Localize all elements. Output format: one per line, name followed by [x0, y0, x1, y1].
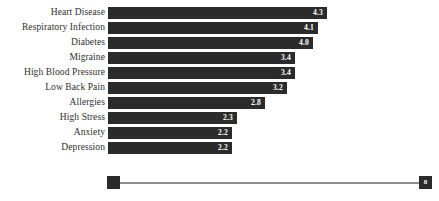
bar-row: Allergies2.8: [0, 96, 439, 111]
plot-area: Heart Disease4.3Respiratory Infection4.1…: [0, 6, 439, 156]
bar-value-label: 2.2: [108, 127, 228, 139]
bar-row: High Blood Pressure3.4: [0, 66, 439, 81]
bar-value-label: 4.0: [108, 37, 309, 49]
category-label: Respiratory Infection: [22, 21, 105, 36]
slider-handle-left[interactable]: [107, 176, 120, 189]
bar-track: 3.4: [108, 52, 439, 64]
bar-track: 4.0: [108, 37, 439, 49]
bar-row: Respiratory Infection4.1: [0, 21, 439, 36]
bar-value-label: 3.4: [108, 67, 291, 79]
category-label: Migraine: [69, 51, 105, 66]
bar-value-label: 3.2: [108, 82, 283, 94]
category-label: Diabetes: [71, 36, 105, 51]
bar-track: 4.1: [108, 22, 439, 34]
slider-track[interactable]: [114, 182, 420, 184]
slider-handle-right-label: 8: [424, 179, 428, 186]
bar-value-label: 2.2: [108, 142, 228, 154]
category-label: Anxiety: [74, 126, 105, 141]
bar-track: 2.8: [108, 97, 439, 109]
bar-value-label: 3.4: [108, 52, 291, 64]
category-label: Depression: [61, 141, 105, 156]
bar-row: Diabetes4.0: [0, 36, 439, 51]
bar-track: 3.4: [108, 67, 439, 79]
bar-row: Depression2.2: [0, 141, 439, 156]
category-label: Low Back Pain: [45, 81, 105, 96]
bar-track: 2.2: [108, 142, 439, 154]
bar-track: 2.3: [108, 112, 439, 124]
range-slider[interactable]: 8: [0, 176, 439, 190]
bar-value-label: 4.3: [108, 7, 323, 19]
bar-value-label: 2.3: [108, 112, 233, 124]
bar-track: 2.2: [108, 127, 439, 139]
bar-track: 4.3: [108, 7, 439, 19]
category-label: High Blood Pressure: [24, 66, 105, 81]
bar-chart: Heart Disease4.3Respiratory Infection4.1…: [0, 0, 439, 201]
category-label: Allergies: [69, 96, 105, 111]
bar-row: Low Back Pain3.2: [0, 81, 439, 96]
bar-row: Anxiety2.2: [0, 126, 439, 141]
bar-row: Heart Disease4.3: [0, 6, 439, 21]
bar-value-label: 2.8: [108, 97, 261, 109]
bar-row: Migraine3.4: [0, 51, 439, 66]
bar-row: High Stress2.3: [0, 111, 439, 126]
bar-track: 3.2: [108, 82, 439, 94]
category-label: Heart Disease: [51, 6, 105, 21]
category-label: High Stress: [60, 111, 105, 126]
bar-value-label: 4.1: [108, 22, 314, 34]
slider-handle-right[interactable]: 8: [419, 176, 432, 189]
